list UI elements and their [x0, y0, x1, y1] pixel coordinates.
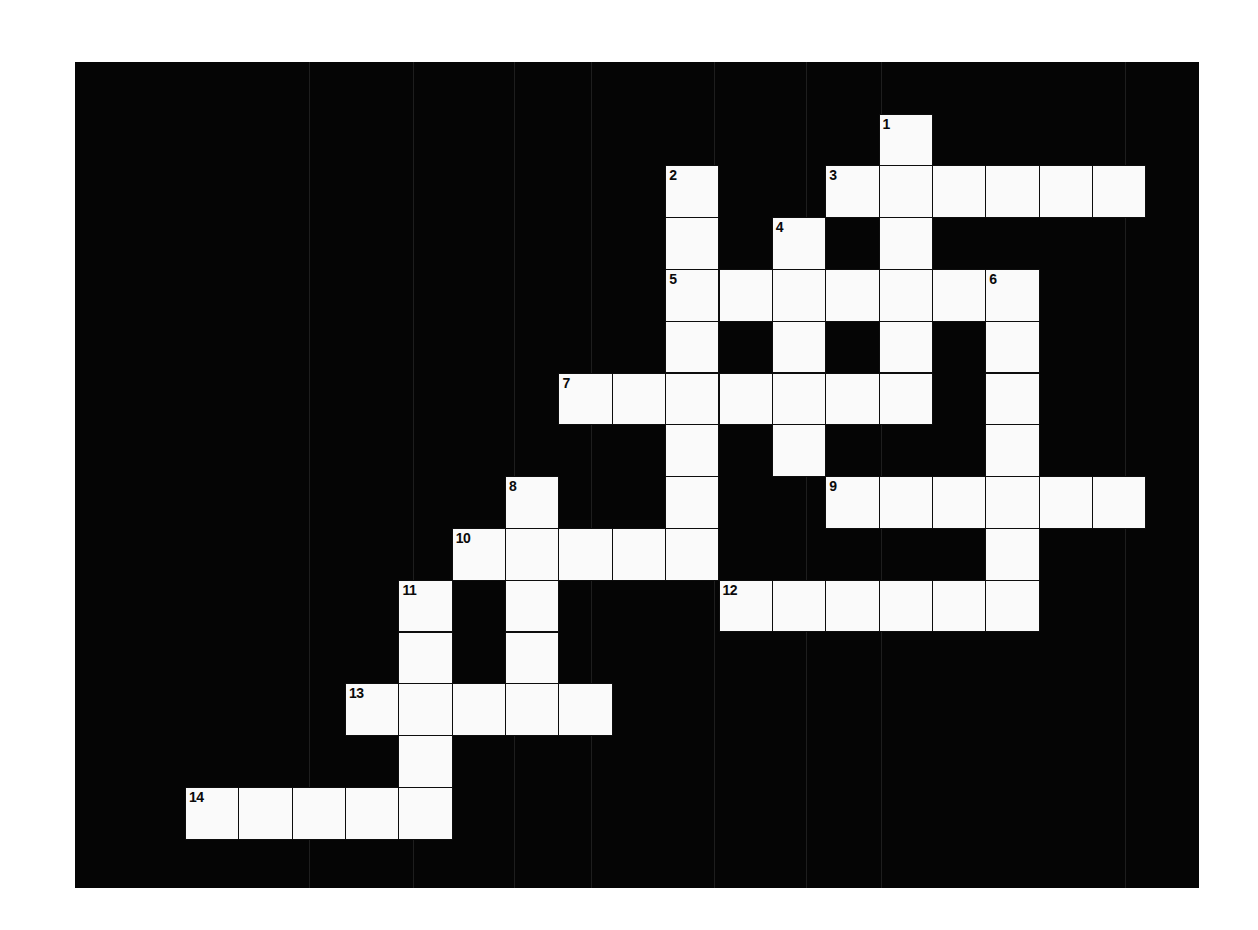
crossword-cell[interactable] — [825, 580, 879, 633]
crossword-cell[interactable]: 7 — [558, 373, 612, 426]
crossword-cell[interactable] — [772, 424, 826, 477]
crossword-cell[interactable] — [985, 528, 1039, 581]
crossword-cell[interactable] — [985, 373, 1039, 426]
crossword-cell[interactable] — [505, 528, 559, 581]
crossword-cell[interactable]: 13 — [345, 683, 399, 736]
scan-artifact-line — [514, 62, 515, 888]
crossword-cell[interactable] — [612, 528, 666, 581]
crossword-cell[interactable]: 2 — [665, 165, 719, 218]
clue-number: 14 — [189, 790, 204, 804]
crossword-cell[interactable] — [558, 683, 612, 736]
crossword-cell[interactable] — [879, 476, 933, 529]
crossword-cell[interactable] — [879, 269, 933, 322]
crossword-cell[interactable] — [1092, 476, 1146, 529]
crossword-cell[interactable] — [558, 528, 612, 581]
clue-number: 12 — [723, 583, 738, 597]
clue-number: 5 — [669, 272, 676, 286]
clue-number: 1 — [883, 117, 890, 131]
crossword-cell[interactable] — [452, 683, 506, 736]
crossword-cell[interactable] — [932, 165, 986, 218]
crossword-cell[interactable] — [879, 217, 933, 270]
crossword-cell[interactable] — [985, 424, 1039, 477]
crossword-cell[interactable] — [398, 735, 452, 788]
crossword-cell[interactable]: 9 — [825, 476, 879, 529]
crossword-cell[interactable] — [985, 476, 1039, 529]
crossword-cell[interactable] — [825, 269, 879, 322]
crossword-cell[interactable] — [985, 580, 1039, 633]
clue-number: 4 — [776, 220, 783, 234]
scan-artifact-line — [309, 62, 310, 888]
crossword-cell[interactable]: 5 — [665, 269, 719, 322]
crossword-cell[interactable]: 3 — [825, 165, 879, 218]
crossword-cell[interactable] — [985, 321, 1039, 374]
crossword-cell[interactable] — [665, 373, 719, 426]
clue-number: 2 — [669, 168, 676, 182]
clue-number: 8 — [509, 479, 516, 493]
crossword-cell[interactable]: 11 — [398, 580, 452, 633]
crossword-cell[interactable] — [879, 165, 933, 218]
crossword-cell[interactable] — [772, 321, 826, 374]
crossword-cell[interactable] — [398, 632, 452, 685]
crossword-cell[interactable] — [665, 476, 719, 529]
crossword-cell[interactable] — [665, 424, 719, 477]
scan-artifact-line — [591, 62, 592, 888]
crossword-cell[interactable] — [825, 373, 879, 426]
crossword-board: 1253467891011121314 — [75, 62, 1199, 888]
crossword-cell[interactable]: 12 — [719, 580, 773, 633]
crossword-cell[interactable] — [665, 217, 719, 270]
crossword-cell[interactable]: 14 — [185, 787, 239, 840]
crossword-cell[interactable] — [719, 373, 773, 426]
crossword-cell[interactable] — [1039, 476, 1093, 529]
crossword-cell[interactable] — [932, 580, 986, 633]
crossword-cell[interactable] — [1092, 165, 1146, 218]
clue-number: 7 — [562, 376, 569, 390]
crossword-cell[interactable]: 10 — [452, 528, 506, 581]
crossword-cell[interactable] — [292, 787, 346, 840]
clue-number: 3 — [829, 168, 836, 182]
crossword-cell[interactable] — [398, 683, 452, 736]
crossword-cell[interactable] — [398, 787, 452, 840]
crossword-cell[interactable] — [238, 787, 292, 840]
crossword-cell[interactable]: 6 — [985, 269, 1039, 322]
clue-number: 13 — [349, 686, 364, 700]
crossword-cell[interactable] — [665, 321, 719, 374]
crossword-cell[interactable] — [879, 580, 933, 633]
crossword-cell[interactable] — [612, 373, 666, 426]
crossword-cell[interactable]: 1 — [879, 114, 933, 167]
crossword-cell[interactable] — [772, 580, 826, 633]
crossword-cell[interactable] — [345, 787, 399, 840]
crossword-cell[interactable] — [505, 580, 559, 633]
crossword-cell[interactable]: 4 — [772, 217, 826, 270]
crossword-cell[interactable] — [932, 269, 986, 322]
crossword-cell[interactable] — [985, 165, 1039, 218]
crossword-cell[interactable] — [665, 528, 719, 581]
crossword-cell[interactable] — [879, 321, 933, 374]
clue-number: 9 — [829, 479, 836, 493]
clue-number: 11 — [402, 583, 416, 597]
clue-number: 10 — [456, 531, 471, 545]
crossword-cell[interactable] — [505, 632, 559, 685]
crossword-cell[interactable] — [719, 269, 773, 322]
clue-number: 6 — [989, 272, 996, 286]
crossword-cell[interactable] — [1039, 165, 1093, 218]
crossword-cell[interactable]: 8 — [505, 476, 559, 529]
crossword-cell[interactable] — [772, 373, 826, 426]
crossword-cell[interactable] — [505, 683, 559, 736]
crossword-cell[interactable] — [772, 269, 826, 322]
crossword-cell[interactable] — [932, 476, 986, 529]
crossword-cell[interactable] — [879, 373, 933, 426]
